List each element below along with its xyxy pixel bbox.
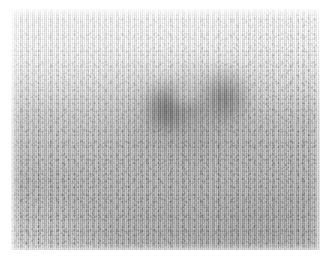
scintigraphy-scan-image: Grayscale scintigraphy scan showing a mo… bbox=[11, 9, 320, 250]
print-edge-bleed bbox=[11, 9, 320, 250]
scan-viewer: Grayscale scintigraphy scan showing a mo… bbox=[0, 0, 332, 266]
